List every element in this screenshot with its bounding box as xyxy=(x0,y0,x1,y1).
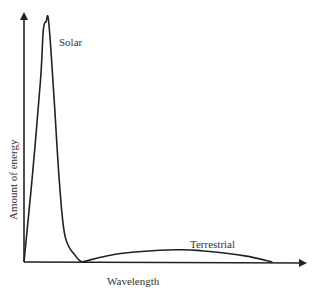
x-axis-label: Wavelength xyxy=(107,275,160,287)
terrestrial-curve xyxy=(82,250,272,262)
energy-spectrum-diagram: Solar Terrestrial Wavelength Amount of e… xyxy=(0,0,319,300)
terrestrial-label: Terrestrial xyxy=(190,238,235,250)
solar-curve xyxy=(24,16,82,262)
y-axis-label: Amount of energy xyxy=(7,139,19,220)
x-axis xyxy=(24,262,305,263)
solar-label: Solar xyxy=(59,36,83,48)
